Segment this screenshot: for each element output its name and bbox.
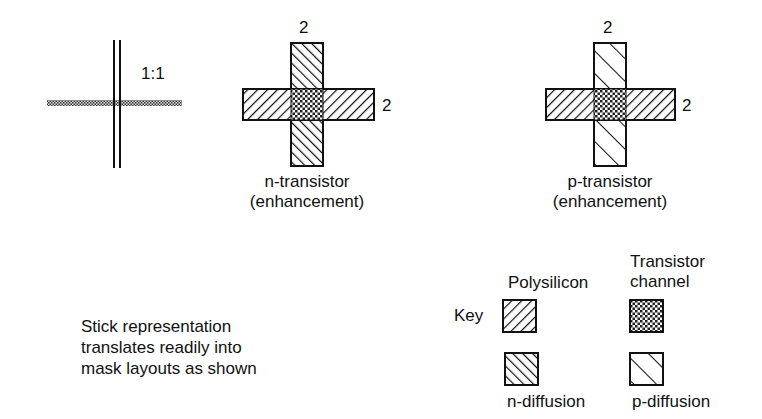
n-transistor-title-line2: (enhancement) [232,192,382,212]
caption-line3: mask layouts as shown [81,358,257,379]
p-transistor-width-top: 2 [603,18,612,38]
transistor-channel [291,89,323,120]
key-swatch-transistor-channel [630,300,663,332]
key-swatch-polysilicon [503,300,536,332]
key-swatch-p-diffusion [630,353,663,385]
stick-ratio-label: 1:1 [141,64,165,84]
key-swatch-n-diffusion [505,353,538,385]
p-transistor-width-right: 2 [682,96,691,116]
n-transistor-width-top: 2 [299,18,308,38]
stick-diagram [47,40,182,168]
caption: Stick representation translates readily … [81,316,257,379]
p-transistor-layout [546,43,675,166]
key-label-transistor-channel-line1: Transistor [630,252,705,272]
key-swatches [503,300,663,385]
caption-line1: Stick representation [81,316,257,337]
key-label-n-diffusion: n-diffusion [507,392,585,412]
p-transistor-title-line1: p-transistor [535,172,685,192]
key-title: Key [454,306,483,326]
key-label-polysilicon: Polysilicon [508,273,588,293]
n-transistor-layout [243,43,374,166]
transistor-channel [594,89,626,120]
n-transistor-title: n-transistor (enhancement) [232,172,382,212]
key-label-p-diffusion: p-diffusion [632,392,710,412]
key-label-transistor-channel: Transistor channel [630,252,705,292]
key-label-transistor-channel-line2: channel [630,272,705,292]
p-transistor-title: p-transistor (enhancement) [535,172,685,212]
n-transistor-width-right: 2 [382,96,391,116]
caption-line2: translates readily into [81,337,257,358]
n-transistor-title-line1: n-transistor [232,172,382,192]
p-transistor-title-line2: (enhancement) [535,192,685,212]
